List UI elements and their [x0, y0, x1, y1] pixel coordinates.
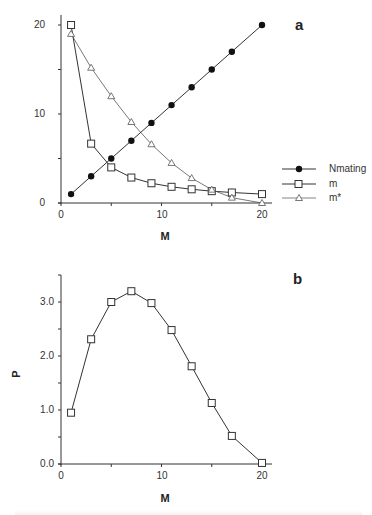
y-axis-title-b: P: [10, 370, 22, 377]
data-point: [168, 183, 175, 190]
data-point: [188, 186, 195, 193]
filled-circle-marker-icon: [296, 166, 302, 172]
y-tick-label: 0.0: [40, 458, 54, 469]
data-point: [88, 173, 94, 179]
open-triangle-marker-icon: [296, 195, 303, 201]
data-point: [108, 164, 115, 171]
data-point: [128, 138, 134, 144]
data-point: [128, 174, 135, 181]
open-square-marker-icon: [295, 181, 302, 188]
data-point: [148, 180, 155, 187]
series-a: [68, 22, 266, 206]
data-point: [188, 175, 195, 181]
data-point: [168, 102, 174, 108]
legend: Nmating m m*: [282, 163, 366, 203]
data-point: [259, 459, 266, 466]
data-point: [88, 140, 95, 147]
y-tick-label: 10: [34, 108, 46, 119]
x-axis-title-b: M: [160, 492, 169, 504]
x-tick-label: 10: [156, 470, 168, 481]
data-point: [88, 64, 95, 70]
panel-label-a: a: [295, 16, 304, 33]
x-tick-label: 20: [256, 209, 268, 220]
data-point: [108, 93, 115, 99]
x-axis-title-a: M: [160, 230, 169, 242]
data-point: [188, 84, 194, 90]
data-point: [228, 432, 235, 439]
data-point: [208, 399, 215, 406]
series-b: [68, 288, 266, 467]
data-point: [168, 327, 175, 334]
data-point: [259, 22, 265, 28]
data-point: [68, 22, 75, 29]
x-tick-label: 0: [58, 470, 64, 481]
data-point: [188, 363, 195, 370]
legend-label-mstar: m*: [329, 192, 341, 203]
data-point: [108, 299, 115, 306]
x-tick-label: 20: [256, 470, 268, 481]
data-point: [68, 409, 75, 416]
chart-panel-b: 0.0 1.0 2.0 3.0 0 10 20 M P b: [10, 270, 302, 504]
y-tick-label: 2.0: [40, 350, 54, 361]
y-tick-label: 20: [34, 19, 46, 30]
data-point: [209, 66, 215, 72]
figure: 0 10 20 0 10 20 M a Nmating m m* 0.0 1.0…: [0, 0, 372, 515]
data-point: [68, 30, 75, 36]
data-point: [229, 49, 235, 55]
y-tick-label: 0: [39, 197, 45, 208]
legend-label-m: m: [329, 178, 337, 189]
cropped-caption-strip: [15, 510, 362, 515]
data-point: [148, 120, 154, 126]
x-tick-label: 0: [58, 209, 64, 220]
data-point: [68, 191, 74, 197]
y-tick-label: 3.0: [40, 296, 54, 307]
data-point: [148, 300, 155, 307]
y-tick-label: 1.0: [40, 404, 54, 415]
panel-label-b: b: [293, 270, 302, 287]
x-tick-label: 10: [156, 209, 168, 220]
data-point: [259, 191, 266, 198]
data-point: [128, 288, 135, 295]
legend-label-nmating: Nmating: [329, 163, 366, 174]
data-point: [108, 155, 114, 161]
data-point: [88, 336, 95, 343]
chart-panel-a: 0 10 20 0 10 20 M a Nmating m m*: [34, 15, 366, 242]
